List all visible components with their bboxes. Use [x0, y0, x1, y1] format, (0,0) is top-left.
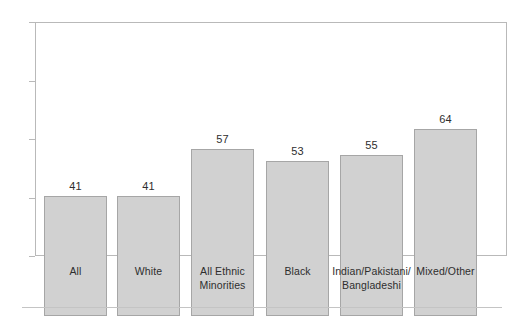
x-label-line1: White [135, 265, 162, 277]
x-label-mixed-other: Mixed/Other [404, 264, 487, 278]
bar-value-label: 64 [414, 113, 477, 125]
x-axis-labels: All White All Ethnic Minorities Black In… [0, 264, 515, 308]
x-label-line2: Bangladeshi [325, 278, 418, 292]
bar-value-label: 55 [340, 139, 403, 151]
x-label-line1: All [70, 265, 82, 277]
bar-value-label: 41 [44, 180, 107, 192]
x-label-all-ethnic-minorities: All Ethnic Minorities [181, 264, 264, 292]
bar-value-label: 41 [117, 180, 180, 192]
x-label-all: All [34, 264, 117, 278]
bar-chart: 0 20 40 60 80 41 41 57 [0, 0, 515, 316]
x-label-white: White [107, 264, 190, 278]
x-label-line1: All Ethnic [200, 265, 245, 277]
x-label-line2: Minorities [181, 278, 264, 292]
bar-value-label: 57 [191, 133, 254, 145]
x-label-line1: Black [284, 265, 310, 277]
bottom-divider [22, 307, 502, 308]
x-label-line1: Mixed/Other [416, 265, 474, 277]
bar-value-label: 53 [266, 145, 329, 157]
x-label-line1: Indian/Pakistani/ [332, 265, 411, 277]
